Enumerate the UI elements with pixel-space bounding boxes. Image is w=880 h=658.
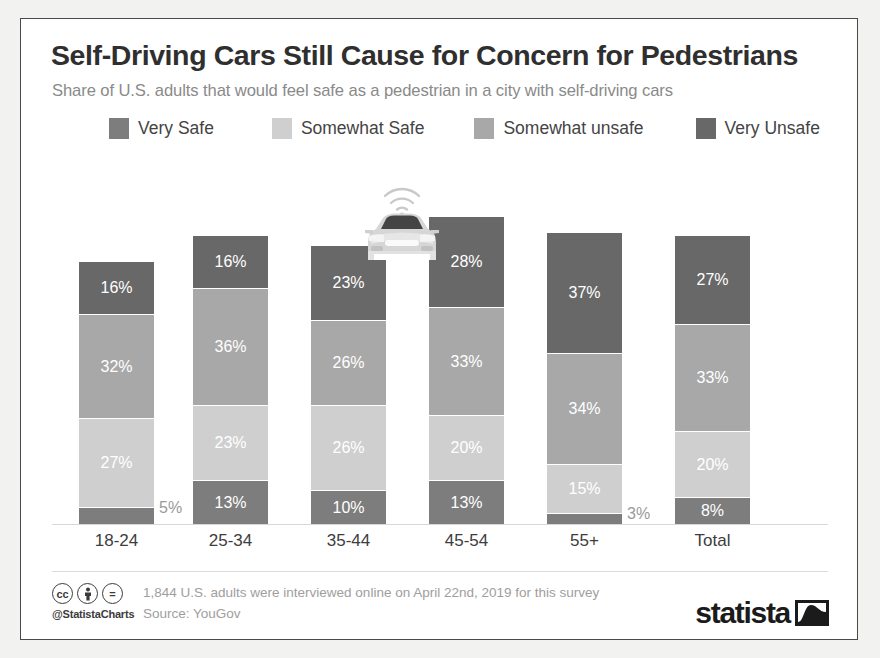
bar-segment-label: 33% bbox=[450, 353, 482, 371]
bar-segment-18-24-very-safe[interactable] bbox=[79, 508, 154, 524]
wifi-signal-icon bbox=[385, 189, 419, 210]
footer-note: 1,844 U.S. adults were interviewed onlin… bbox=[143, 583, 599, 625]
x-axis-label-35-44: 35-44 bbox=[287, 531, 410, 551]
bar-segment-55+-very-safe[interactable] bbox=[547, 514, 622, 524]
creative-commons-marks: cc = bbox=[52, 583, 127, 604]
bar-segment-label-outside: 3% bbox=[627, 505, 650, 523]
statista-mark-icon bbox=[795, 600, 829, 626]
bar-segment-label: 32% bbox=[100, 358, 132, 376]
stacked-bar-25-34[interactable]: 13%23%36%16% bbox=[193, 236, 268, 524]
bar-segment-25-34-somewhat-safe[interactable]: 23% bbox=[193, 406, 268, 481]
bar-segment-35-44-somewhat-unsafe[interactable]: 26% bbox=[311, 321, 386, 406]
bar-segment-25-34-somewhat-unsafe[interactable]: 36% bbox=[193, 289, 268, 407]
cc-icon: cc bbox=[52, 583, 73, 604]
bar-segment-label-outside: 5% bbox=[159, 499, 182, 517]
bar-segment-label: 26% bbox=[332, 439, 364, 457]
bar-segment-label: 27% bbox=[100, 454, 132, 472]
bar-segment-label: 23% bbox=[214, 434, 246, 452]
bar-segment-45-54-somewhat-safe[interactable]: 20% bbox=[429, 416, 504, 481]
x-axis-label-25-34: 25-34 bbox=[169, 531, 292, 551]
x-axis-label-Total: Total bbox=[651, 531, 774, 551]
bar-segment-25-34-very-safe[interactable]: 13% bbox=[193, 481, 268, 524]
bar-segment-45-54-somewhat-unsafe[interactable]: 33% bbox=[429, 308, 504, 416]
statista-logo: statista bbox=[695, 596, 829, 630]
bar-segment-Total-very-safe[interactable]: 8% bbox=[675, 498, 750, 524]
bar-segment-label: 37% bbox=[568, 284, 600, 302]
footer-note-line1: 1,844 U.S. adults were interviewed onlin… bbox=[143, 583, 599, 604]
bar-segment-label: 13% bbox=[450, 494, 482, 512]
bar-segment-label: 8% bbox=[701, 502, 724, 520]
bar-segment-18-24-somewhat-unsafe[interactable]: 32% bbox=[79, 315, 154, 420]
footer-divider bbox=[52, 571, 828, 572]
statista-handle: @StatistaCharts bbox=[52, 608, 134, 620]
self-driving-car-icon bbox=[352, 174, 452, 264]
footer-note-line2: Source: YouGov bbox=[143, 604, 599, 625]
bar-segment-label: 23% bbox=[332, 274, 364, 292]
x-axis-label-18-24: 18-24 bbox=[55, 531, 178, 551]
bar-segment-label: 20% bbox=[450, 439, 482, 457]
bar-segment-label: 20% bbox=[696, 456, 728, 474]
stacked-bar-Total[interactable]: 8%20%33%27% bbox=[675, 236, 750, 524]
bar-segment-18-24-somewhat-safe[interactable]: 27% bbox=[79, 419, 154, 507]
bar-segment-label: 15% bbox=[568, 480, 600, 498]
bar-segment-label: 16% bbox=[100, 279, 132, 297]
bar-segment-45-54-very-safe[interactable]: 13% bbox=[429, 481, 504, 524]
stacked-bar-18-24[interactable]: 27%32%16% bbox=[79, 262, 154, 524]
bar-segment-55+-very-unsafe[interactable]: 37% bbox=[547, 233, 622, 354]
x-axis-label-45-54: 45-54 bbox=[405, 531, 528, 551]
bar-segment-label: 28% bbox=[450, 253, 482, 271]
bar-segment-Total-somewhat-unsafe[interactable]: 33% bbox=[675, 325, 750, 433]
stacked-bar-35-44[interactable]: 10%26%26%23% bbox=[311, 246, 386, 524]
bar-segment-label: 34% bbox=[568, 400, 600, 418]
bar-segment-label: 36% bbox=[214, 338, 246, 356]
bar-segment-35-44-very-safe[interactable]: 10% bbox=[311, 491, 386, 524]
x-axis-label-55+: 55+ bbox=[523, 531, 646, 551]
bar-segment-18-24-very-unsafe[interactable]: 16% bbox=[79, 262, 154, 314]
cc-by-icon bbox=[77, 583, 98, 604]
bar-segment-Total-somewhat-safe[interactable]: 20% bbox=[675, 432, 750, 497]
bar-segment-label: 27% bbox=[696, 271, 728, 289]
cc-nd-icon: = bbox=[102, 583, 123, 604]
axis-baseline bbox=[52, 524, 828, 525]
bar-segment-label: 16% bbox=[214, 253, 246, 271]
bar-segment-25-34-very-unsafe[interactable]: 16% bbox=[193, 236, 268, 288]
bar-segment-label: 10% bbox=[332, 499, 364, 517]
bar-segment-label: 13% bbox=[214, 494, 246, 512]
bar-segment-35-44-somewhat-safe[interactable]: 26% bbox=[311, 406, 386, 491]
chart-plot-area: 5%27%32%16%18-2413%23%36%16%25-3410%26%2… bbox=[21, 19, 859, 641]
bar-segment-label: 26% bbox=[332, 354, 364, 372]
stacked-bar-55+[interactable]: 15%34%37% bbox=[547, 233, 622, 524]
bar-segment-label: 33% bbox=[696, 369, 728, 387]
bar-segment-Total-very-unsafe[interactable]: 27% bbox=[675, 236, 750, 324]
statista-wordmark: statista bbox=[695, 596, 790, 630]
bar-segment-55+-somewhat-unsafe[interactable]: 34% bbox=[547, 354, 622, 465]
bar-segment-55+-somewhat-safe[interactable]: 15% bbox=[547, 465, 622, 514]
infographic-card: Self-Driving Cars Still Cause for Concer… bbox=[20, 18, 858, 640]
